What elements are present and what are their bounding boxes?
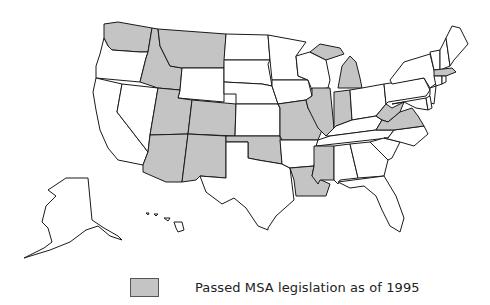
state-MT [158,29,226,68]
state-MA [434,68,456,76]
state-MI [338,56,362,88]
state-AR [280,140,318,168]
map-legend: Passed MSA legislation as of 1995 [130,276,420,298]
state-CT [434,76,442,86]
state-KS [235,104,280,136]
us-map [0,0,490,260]
state-ME [446,26,468,66]
state-NE [224,82,278,104]
state-RI [442,76,446,84]
state-FL [338,176,404,232]
state-AK [24,178,122,258]
state-CO [188,100,236,136]
legend-swatch-passed [130,278,159,297]
state-NM [182,134,226,182]
state-WY [178,68,224,102]
state-ND [224,34,270,60]
state-MS [312,146,334,184]
state-HI [146,213,184,232]
legend-label-passed: Passed MSA legislation as of 1995 [195,280,420,295]
state-AZ [143,134,188,182]
state-WA [104,22,152,52]
